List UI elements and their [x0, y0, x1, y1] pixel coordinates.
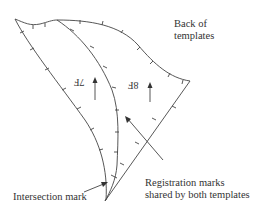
template-8f-label: 8F [128, 80, 139, 91]
back-of-templates-label: Back of templates [174, 18, 214, 42]
registration-line-1: Registration marks [145, 177, 250, 189]
template-7f-top-edge [15, 19, 57, 25]
template-8f-top-edge [57, 20, 190, 81]
intersection-mark-label: Intersection mark [13, 191, 87, 203]
arrowhead-8f [148, 82, 153, 88]
registration-line-2: shared by both templates [145, 189, 250, 201]
label-line-2: templates [174, 30, 214, 42]
template-7f-left-edge [15, 19, 106, 200]
arrowhead-intersection [101, 182, 108, 187]
template-7f-label: 7F [74, 77, 85, 88]
arrowhead-7f [93, 77, 98, 83]
shared-seam [57, 20, 118, 201]
registration-marks-label: Registration marks shared by both templa… [145, 177, 250, 201]
label-line-1: Back of [174, 18, 214, 30]
registration-callout-line [127, 118, 163, 160]
